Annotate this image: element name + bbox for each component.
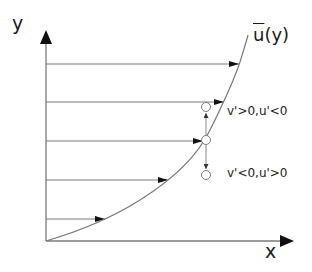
x-axis-label: x xyxy=(265,242,276,261)
velocity-profile-curve xyxy=(46,35,248,241)
particle-lower xyxy=(202,171,211,180)
curve-label-suffix: (y) xyxy=(264,24,289,45)
particle-upper xyxy=(202,103,211,112)
annotation-downward: v'<0,u'>0 xyxy=(227,167,288,179)
annotation-upward: v'>0,u'<0 xyxy=(227,105,288,117)
curve-label-base: u xyxy=(253,24,264,45)
curve-label: u(y) xyxy=(253,26,289,44)
particle-middle xyxy=(202,136,211,145)
y-axis-label: y xyxy=(12,14,23,33)
